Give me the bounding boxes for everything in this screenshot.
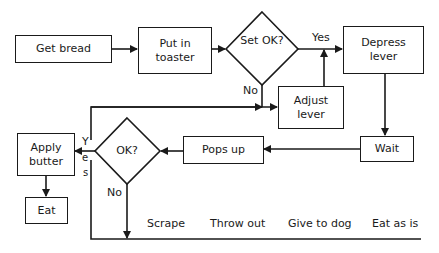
edge-label-yes-e: e xyxy=(82,152,88,164)
node-label: Depress lever xyxy=(358,36,409,64)
edge-label-yes-y: Y xyxy=(82,136,89,148)
edge-label-no-ok: No xyxy=(107,187,122,199)
decision-set-ok: Set OK? xyxy=(237,34,287,48)
outcome-eat-as-is: Eat as is xyxy=(372,218,418,230)
node-label: Adjust lever xyxy=(289,94,333,122)
edge-label-no: No xyxy=(243,85,258,97)
node-put-in-toaster: Put in toaster xyxy=(138,27,212,74)
node-pops-up: Pops up xyxy=(183,136,264,164)
node-label: Pops up xyxy=(202,143,245,157)
decision-ok: OK? xyxy=(104,144,150,158)
edge-label-yes: Yes xyxy=(312,32,330,44)
node-depress-lever: Depress lever xyxy=(343,26,424,74)
node-label: Wait xyxy=(375,142,399,156)
node-label: Put in toaster xyxy=(139,37,211,65)
decision-label: OK? xyxy=(116,144,138,157)
outcome-give-to-dog: Give to dog xyxy=(288,218,352,230)
edge-label-yes-s: s xyxy=(83,167,88,179)
node-label: Get bread xyxy=(36,42,91,56)
node-wait: Wait xyxy=(360,136,414,162)
outcome-scrape: Scrape xyxy=(147,218,185,230)
node-apply-butter: Apply butter xyxy=(17,133,75,176)
node-get-bread: Get bread xyxy=(15,35,112,63)
node-label: Eat xyxy=(37,204,55,218)
node-eat: Eat xyxy=(25,197,68,224)
node-adjust-lever: Adjust lever xyxy=(278,86,344,129)
outcome-throw-out: Throw out xyxy=(210,218,265,230)
decision-label: Set OK? xyxy=(240,34,283,47)
node-label: Apply butter xyxy=(24,141,68,169)
